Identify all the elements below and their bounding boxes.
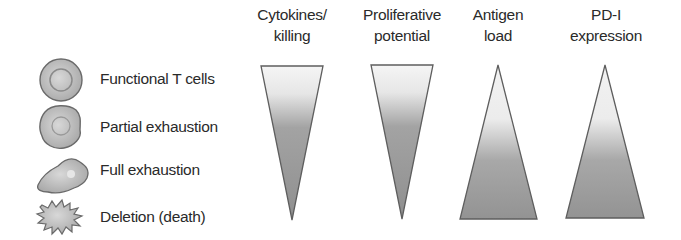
irregular-cell-icon [40,106,80,149]
header-line: Antigen [460,4,536,25]
legend-functional: Functional T cells [100,70,215,88]
pd1-expression-triangle [566,65,644,218]
column-header-antigen: Antigen load [460,4,536,46]
header-line: killing [248,25,336,46]
header-line: PD-I [558,4,654,25]
header-line: Proliferative [352,4,452,25]
antigen-load-triangle [460,65,537,219]
cytokines-killing-triangle [261,66,323,220]
spiky-cell-icon [37,200,82,234]
column-header-pd1: PD-I expression [558,4,654,46]
proliferative-potential-triangle [371,65,433,219]
legend-full: Full exhaustion [100,161,200,179]
round-cell-icon [40,59,82,101]
header-line: potential [352,25,452,46]
legend-deletion: Deletion (death) [100,208,206,226]
spread-cell-icon [38,159,88,193]
legend-partial: Partial exhaustion [100,118,218,136]
header-line: expression [558,25,654,46]
column-header-cytokines: Cytokines/ killing [248,4,336,46]
header-line: Cytokines/ [248,4,336,25]
header-line: load [460,25,536,46]
column-header-proliferative: Proliferative potential [352,4,452,46]
